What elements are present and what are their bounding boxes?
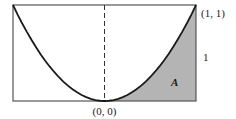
area-label: A — [170, 76, 178, 88]
corner-point-label: (1, 1) — [201, 7, 225, 20]
origin-label: (0, 0) — [93, 105, 117, 118]
parabola-diagram: (1, 1) 1 A (0, 0) — [0, 0, 236, 119]
shaded-area-a — [105, 5, 197, 101]
height-label: 1 — [203, 51, 209, 63]
